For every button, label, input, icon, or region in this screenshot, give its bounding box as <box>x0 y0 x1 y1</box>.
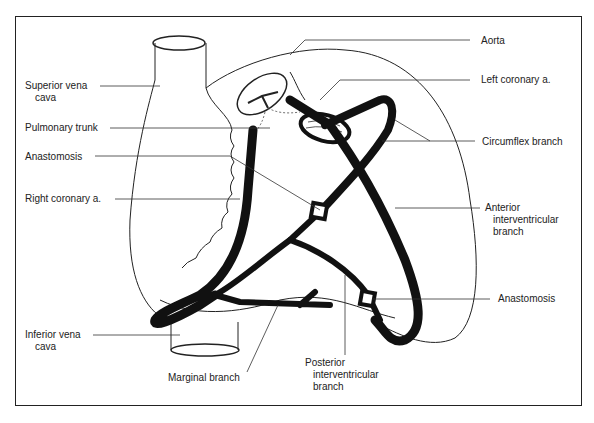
inferior-vena-cava-shape <box>171 322 239 356</box>
anastomosis-lower <box>360 291 375 306</box>
right-coronary-artery <box>155 130 253 324</box>
label-posterior-interventricular: Posterior interventricular branch <box>305 357 379 393</box>
label-inferior-vena-cava: Inferior vena cava <box>25 329 81 353</box>
label-line: interventricular <box>485 214 559 226</box>
label-line: Inferior vena <box>25 329 81 340</box>
label-superior-vena-cava: Superior vena cava <box>25 80 87 104</box>
label-aorta: Aorta <box>481 35 505 47</box>
label-marginal-branch: Marginal branch <box>168 372 240 384</box>
label-line: interventricular <box>305 369 379 381</box>
label-anastomosis-left: Anastomosis <box>25 151 82 163</box>
label-right-coronary: Right coronary a. <box>25 193 101 205</box>
posterior-interventricular-branch <box>290 240 380 320</box>
label-line: branch <box>485 226 559 238</box>
label-line: branch <box>305 381 379 393</box>
marginal-branch <box>215 292 330 305</box>
label-line: Anterior <box>485 202 520 213</box>
label-line: Superior vena <box>25 80 87 91</box>
label-left-coronary: Left coronary a. <box>481 74 550 86</box>
label-pulmonary-trunk: Pulmonary trunk <box>25 122 98 134</box>
label-anastomosis-right: Anastomosis <box>498 293 555 305</box>
label-anterior-interventricular: Anterior interventricular branch <box>485 202 559 238</box>
label-line: cava <box>25 92 87 104</box>
label-circumflex-branch: Circumflex branch <box>482 136 563 148</box>
label-line: Posterior <box>305 357 345 368</box>
anastomosis-upper <box>311 203 327 219</box>
coronary-vessels <box>155 99 419 341</box>
aorta-shape <box>230 65 305 123</box>
label-line: cava <box>25 341 81 353</box>
